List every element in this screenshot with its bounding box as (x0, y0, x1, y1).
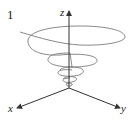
axes (17, 11, 120, 108)
x-axis (17, 88, 69, 108)
spiral-curve (20, 26, 125, 86)
y-axis-label: y (120, 102, 126, 114)
y-axis (69, 88, 120, 108)
z-axis-label: z (59, 6, 65, 18)
figure-number: 1 (7, 7, 14, 22)
helix-diagram: 1 z x y (0, 0, 133, 122)
x-axis-label: x (7, 102, 13, 114)
